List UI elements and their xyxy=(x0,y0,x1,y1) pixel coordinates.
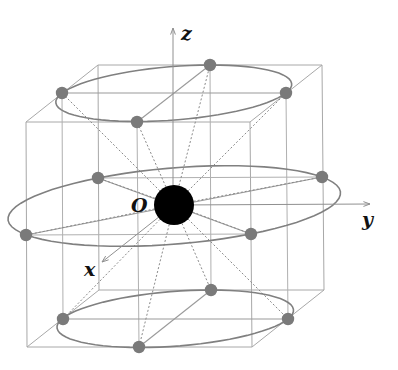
x-axis-label: x xyxy=(83,258,96,280)
ring-atom xyxy=(92,172,104,184)
midplane-line xyxy=(26,234,251,235)
bond-dash xyxy=(174,205,288,319)
bond-dash xyxy=(139,205,174,347)
ring-atom xyxy=(205,284,217,296)
midplane-line xyxy=(98,177,322,178)
bond-dash xyxy=(63,205,174,319)
y-axis-line xyxy=(174,204,370,205)
lattice-diagram: O x y z xyxy=(0,0,398,370)
vertical-edge-line xyxy=(62,93,63,319)
center-atom-O xyxy=(154,185,194,225)
ring-atom xyxy=(280,87,292,99)
ring-atom xyxy=(316,171,328,183)
ring-atom xyxy=(57,313,69,325)
ring-atom xyxy=(131,116,143,128)
ring-atom xyxy=(204,59,216,71)
ring-atom xyxy=(133,341,145,353)
ring-atom xyxy=(20,229,32,241)
z-axis-label: z xyxy=(180,22,193,44)
y-axis-label: y xyxy=(361,208,375,230)
ring-atom xyxy=(245,228,257,240)
ring-atom xyxy=(282,313,294,325)
bond-dash xyxy=(62,93,174,205)
origin-label: O xyxy=(131,194,148,216)
coordinate-axes xyxy=(102,28,370,262)
bond-dash xyxy=(174,65,210,205)
bond-dash xyxy=(174,93,286,205)
ring-atom xyxy=(56,87,68,99)
vertical-edge-line xyxy=(286,93,288,319)
